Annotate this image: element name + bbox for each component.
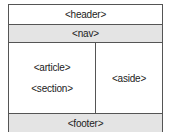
header-region: <header> xyxy=(9,5,162,25)
main-column: <article> <section> xyxy=(9,43,96,113)
footer-label: <footer> xyxy=(68,118,104,129)
layout-diagram-frame: <header> <nav> <article> <section> <asid… xyxy=(8,4,163,132)
nav-label: <nav> xyxy=(72,28,99,39)
header-label: <header> xyxy=(65,9,106,20)
section-label: <section> xyxy=(31,83,73,94)
nav-region: <nav> xyxy=(9,25,162,43)
content-region: <article> <section> <aside> xyxy=(9,43,162,113)
aside-label: <aside> xyxy=(112,73,146,84)
article-label: <article> xyxy=(34,62,71,73)
aside-column: <aside> xyxy=(96,43,162,113)
footer-region: <footer> xyxy=(9,113,162,132)
